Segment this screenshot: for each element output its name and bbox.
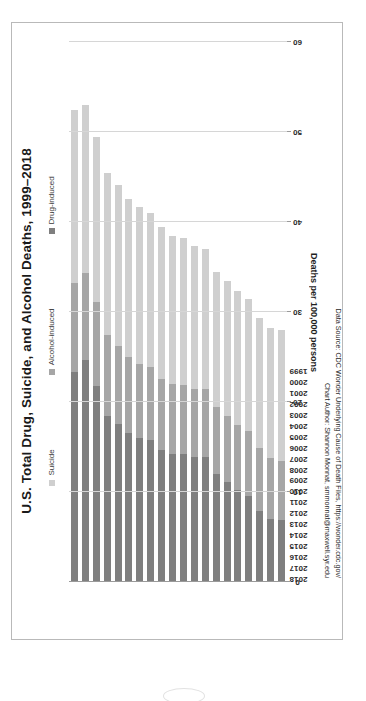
year-label-2000: 2000	[290, 378, 308, 387]
value-tick-label-20: 20	[290, 398, 306, 407]
page-footer-artifact	[163, 688, 205, 701]
bar-segment-alcohol-induced	[93, 302, 100, 386]
bar-row[interactable]	[234, 291, 241, 582]
bar-segment-drug-induced	[224, 482, 231, 582]
bar-segment-alcohol-induced	[213, 407, 220, 474]
value-axis-line	[69, 581, 287, 582]
year-label-2003: 2003	[290, 411, 308, 420]
rotated-chart-canvas: U.S. Total Drug, Suicide, and Alcohol De…	[13, 24, 341, 638]
bar-segment-drug-induced	[169, 454, 176, 582]
bar-segment-suicide	[93, 137, 100, 303]
bar-row[interactable]	[136, 207, 143, 582]
chart-frame: U.S. Total Drug, Suicide, and Alcohol De…	[11, 22, 343, 640]
bar-row[interactable]	[245, 299, 252, 582]
gridline-10	[69, 491, 287, 492]
bar-segment-drug-induced	[71, 372, 78, 582]
bar-segment-suicide	[136, 207, 143, 365]
bar-row[interactable]	[224, 281, 231, 582]
source-notes: Data Source: CDC Wonder Underlying Cause…	[321, 38, 343, 578]
bar-segment-suicide	[213, 272, 220, 408]
legend-label: Alcohol-induced	[47, 308, 56, 365]
year-label-2001: 2001	[290, 389, 308, 398]
legend-swatch-icon	[49, 480, 55, 486]
bar-segment-drug-induced	[125, 433, 132, 582]
bar-row[interactable]	[158, 227, 165, 582]
bar-segment-suicide	[278, 330, 285, 461]
bar-row[interactable]	[82, 105, 89, 582]
bar-segment-alcohol-induced	[234, 425, 241, 491]
bar-segment-drug-induced	[104, 416, 111, 582]
bar-row[interactable]	[147, 213, 154, 582]
bar-row[interactable]	[104, 173, 111, 582]
bar-row[interactable]	[115, 185, 122, 582]
screenshot-page: U.S. Total Drug, Suicide, and Alcohol De…	[0, 0, 366, 701]
bar-segment-alcohol-induced	[115, 346, 122, 424]
bar-row[interactable]	[256, 318, 263, 582]
bar-segment-alcohol-induced	[125, 357, 132, 433]
value-tick-label-50: 50	[290, 128, 306, 137]
bar-row[interactable]	[71, 110, 78, 582]
bar-segment-suicide	[267, 328, 274, 458]
year-label-2014: 2014	[290, 531, 308, 540]
bar-row[interactable]	[169, 236, 176, 582]
bar-segment-drug-induced	[115, 425, 122, 583]
source-line-1: Data Source: CDC Wonder Underlying Cause…	[332, 38, 343, 578]
page-title: U.S. Total Drug, Suicide, and Alcohol De…	[19, 24, 34, 638]
value-tick-label-0: 0	[290, 578, 306, 587]
bar-segment-drug-induced	[202, 457, 209, 582]
plot-area	[69, 42, 287, 582]
value-tick-mark-30	[287, 311, 291, 312]
bar-segment-drug-induced	[82, 360, 89, 582]
bar-segment-drug-induced	[158, 450, 165, 582]
bar-segment-drug-induced	[245, 496, 252, 582]
legend-alcohol-induced[interactable]: Alcohol-induced	[47, 308, 56, 375]
value-axis-ticks	[69, 582, 287, 638]
gridline-60	[69, 41, 287, 42]
value-tick-label-10: 10	[290, 488, 306, 497]
legend-drug-induced[interactable]: Drug-induced	[47, 176, 56, 234]
bar-row[interactable]	[191, 246, 198, 582]
bar-row[interactable]	[213, 272, 220, 582]
gridline-20	[69, 401, 287, 402]
value-tick-mark-0	[287, 581, 291, 582]
bar-segment-drug-induced	[256, 511, 263, 582]
bar-segment-drug-induced	[191, 457, 198, 582]
bar-row[interactable]	[180, 238, 187, 582]
year-label-2013: 2013	[290, 520, 308, 529]
bar-segment-suicide	[115, 185, 122, 346]
bar-row[interactable]	[93, 137, 100, 582]
legend-swatch-icon	[49, 369, 55, 375]
year-label-2015: 2015	[290, 541, 308, 550]
value-tick-mark-50	[287, 131, 291, 132]
year-label-2008: 2008	[290, 465, 308, 474]
bar-segment-alcohol-induced	[245, 431, 252, 496]
bar-segment-drug-induced	[267, 519, 274, 582]
year-label-2017: 2017	[290, 563, 308, 572]
bar-segment-drug-induced	[278, 520, 285, 582]
bar-segment-alcohol-induced	[82, 273, 89, 359]
bar-segment-drug-induced	[234, 490, 241, 582]
bar-segment-alcohol-induced	[147, 367, 154, 440]
gridline-50	[69, 131, 287, 132]
bar-segment-alcohol-induced	[180, 385, 187, 454]
year-label-2009: 2009	[290, 476, 308, 485]
bar-segment-suicide	[256, 318, 263, 448]
legend-suicide[interactable]: Suicide	[47, 449, 56, 485]
gridline-30	[69, 311, 287, 312]
bar-group	[69, 42, 287, 582]
bar-segment-alcohol-induced	[169, 384, 176, 454]
year-label-2004: 2004	[290, 422, 308, 431]
bar-segment-alcohol-induced	[202, 389, 209, 457]
value-tick-mark-60	[287, 41, 291, 42]
bar-row[interactable]	[278, 330, 285, 582]
bar-row[interactable]	[125, 199, 132, 582]
bar-row[interactable]	[202, 249, 209, 582]
bar-row[interactable]	[267, 328, 274, 582]
year-label-2016: 2016	[290, 552, 308, 561]
legend-label: Suicide	[47, 449, 56, 475]
bar-segment-drug-induced	[136, 438, 143, 582]
bar-segment-suicide	[245, 299, 252, 431]
bar-segment-suicide	[191, 246, 198, 388]
bar-segment-alcohol-induced	[104, 335, 111, 416]
bar-segment-alcohol-induced	[267, 458, 274, 519]
